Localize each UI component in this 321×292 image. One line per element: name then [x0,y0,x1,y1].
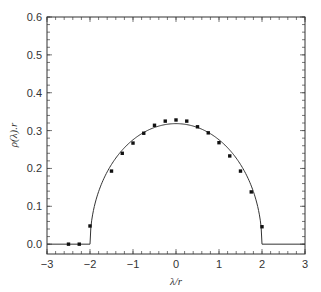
data-point [228,154,231,157]
data-point [110,169,113,172]
y-tick-label: 0.2 [27,162,42,174]
data-point [88,224,91,227]
data-point [121,152,124,155]
data-point [250,190,253,193]
y-axis-label: ρ(λ).r [7,122,20,148]
data-point [164,119,167,122]
data-points [67,118,264,246]
major-ticks [47,17,305,254]
data-point [260,225,263,228]
plot-frame [47,17,305,254]
x-tick-label: −1 [127,258,140,270]
y-tick-label: 0.5 [27,49,42,61]
data-point [78,242,81,245]
y-tick-label: 0.1 [27,200,42,212]
x-axis-label: λ/r [169,275,183,287]
data-point [67,242,70,245]
x-tick-labels: −3−2−10123 [41,258,308,270]
data-point [174,118,177,121]
data-point [239,169,242,172]
minor-ticks [47,17,305,254]
semicircle-curve [47,124,305,245]
data-point [207,131,210,134]
x-tick-label: 1 [216,258,222,270]
data-point [217,141,220,144]
y-tick-label: 0.0 [27,238,42,250]
x-tick-label: 0 [173,258,179,270]
x-tick-label: 3 [302,258,308,270]
x-tick-label: −3 [41,258,54,270]
data-point [153,124,156,127]
y-tick-label: 0.4 [27,87,42,99]
data-point [196,125,199,128]
data-point [131,141,134,144]
x-tick-label: 2 [259,258,265,270]
chart: −3−2−10123 0.00.10.20.30.40.50.6 λ/r ρ(λ… [0,0,321,292]
y-tick-label: 0.3 [27,125,42,137]
data-point [185,119,188,122]
data-point [142,132,145,135]
x-tick-label: −2 [84,258,97,270]
y-tick-label: 0.6 [27,11,42,23]
y-tick-labels: 0.00.10.20.30.40.50.6 [27,11,42,250]
